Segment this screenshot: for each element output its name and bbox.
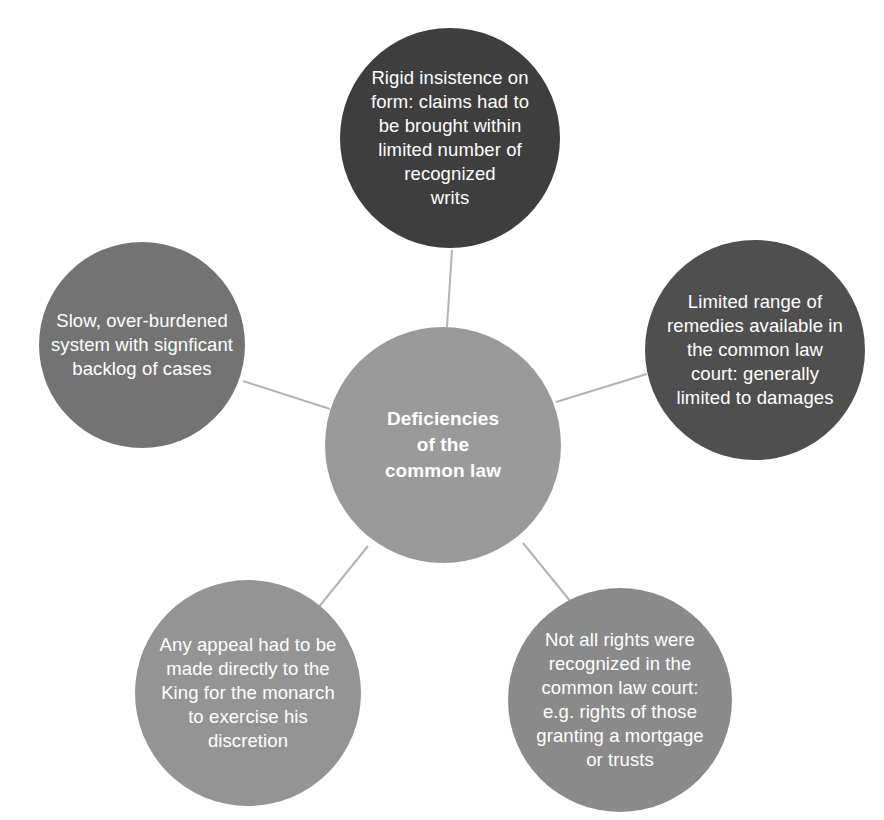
connector-center-to-top	[447, 250, 452, 327]
node-label-bottom-right: Not all rights were recognized in the co…	[508, 628, 732, 772]
node-label-bottom-left: Any appeal had to be made directly to th…	[135, 633, 361, 753]
connector-center-to-bottom-left	[318, 546, 368, 608]
node-rigid-insistence-on-form[interactable]: Rigid insistence on form: claims had to …	[340, 28, 560, 248]
node-appeal-to-the-king[interactable]: Any appeal had to be made directly to th…	[135, 580, 361, 806]
node-slow-over-burdened-system[interactable]: Slow, over-burdened system with signfica…	[39, 242, 245, 448]
node-label-center: Deficiencies of the common law	[325, 406, 561, 485]
connector-center-to-bottom-right	[523, 543, 575, 607]
node-label-right: Limited range of remedies available in t…	[645, 290, 865, 410]
connector-center-to-left	[243, 381, 330, 409]
deficiencies-of-common-law-diagram: Rigid insistence on form: claims had to …	[0, 0, 884, 820]
node-label-left: Slow, over-burdened system with signfica…	[39, 309, 245, 381]
node-center-deficiencies-of-common-law[interactable]: Deficiencies of the common law	[325, 327, 561, 563]
node-label-top: Rigid insistence on form: claims had to …	[340, 66, 560, 210]
node-not-all-rights-recognized[interactable]: Not all rights were recognized in the co…	[508, 588, 732, 812]
node-limited-range-of-remedies[interactable]: Limited range of remedies available in t…	[645, 240, 865, 460]
connector-center-to-right	[556, 374, 647, 402]
